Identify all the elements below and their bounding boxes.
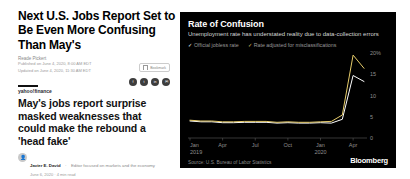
article-meta: Reade Pickert Published on June 4, 2020,… xyxy=(18,56,174,82)
legend-label-official: Official jobless rate xyxy=(194,42,239,48)
bloomberg-chart-card: Rate of Confusion Unemployment rate has … xyxy=(180,12,396,168)
screenshot-root: Next U.S. Jobs Report Set to Be Even Mor… xyxy=(0,0,410,179)
byline-text: Javier E. David · Editor focused on mark… xyxy=(30,153,155,178)
byline-author[interactable]: Javier E. David xyxy=(30,163,61,168)
chart-source: Source: U.S. Bureau of Labor Statistics xyxy=(188,160,271,165)
legend-item-adjusted[interactable]: ✓ Rate adjusted for misclassifications xyxy=(248,42,337,48)
legend-item-official[interactable]: ✓ Official jobless rate xyxy=(188,42,239,48)
svg-text:Jan: Jan xyxy=(190,142,199,148)
chart-footer: Source: U.S. Bureau of Labor Statistics … xyxy=(188,156,388,165)
embedded-source-kicker: yahoo!finance xyxy=(18,85,174,94)
svg-text:Jul: Jul xyxy=(252,142,259,148)
svg-text:Apr: Apr xyxy=(218,142,227,148)
chart-title: Rate of Confusion xyxy=(188,19,388,29)
check-icon: ✓ xyxy=(248,42,252,48)
svg-text:0: 0 xyxy=(370,135,373,141)
bloomberg-logo: Bloomberg xyxy=(350,156,388,165)
embedded-headline: May's jobs report surprise masked weakne… xyxy=(18,97,170,147)
byline-row: 👤 Javier E. David · Editor focused on ma… xyxy=(18,153,174,178)
bloomberg-article-panel: Next U.S. Jobs Report Set to Be Even Mor… xyxy=(0,0,178,179)
facebook-share-icon[interactable]: f xyxy=(129,78,137,86)
yahoo-finance-logo[interactable]: yahoo!finance xyxy=(18,88,174,94)
svg-text:Apr: Apr xyxy=(349,142,358,148)
svg-text:Jan: Jan xyxy=(316,142,325,148)
svg-text:10: 10 xyxy=(370,93,376,99)
svg-text:20%: 20% xyxy=(370,50,381,56)
article-headline: Next U.S. Jobs Report Set to Be Even Mor… xyxy=(18,9,176,52)
bookmark-button[interactable]: Bookmark xyxy=(139,63,170,72)
byline-separator: · xyxy=(65,163,66,168)
linkedin-share-icon[interactable]: in xyxy=(151,78,159,86)
svg-text:2020: 2020 xyxy=(314,149,326,155)
legend-label-adjusted: Rate adjusted for misclassifications xyxy=(254,42,337,48)
author-avatar: 👤 xyxy=(18,153,27,162)
svg-text:2019: 2019 xyxy=(190,149,202,155)
byline-date: June 6, 2020 · 4 min read xyxy=(30,172,155,177)
email-share-icon[interactable]: ✉ xyxy=(162,78,170,86)
unemployment-line-chart: Jan2019AprJulOctJan2020Apr20%151050 xyxy=(188,50,388,156)
social-share-row: f t in ✉ xyxy=(129,78,170,86)
bookmark-label: Bookmark xyxy=(150,66,166,70)
byline-role: Editor focused on markets and the econom… xyxy=(71,163,155,168)
bookmark-icon xyxy=(143,65,148,70)
twitter-share-icon[interactable]: t xyxy=(140,78,148,86)
svg-text:5: 5 xyxy=(370,114,373,120)
article-meta-right: Bookmark f t in ✉ xyxy=(129,56,170,86)
check-icon: ✓ xyxy=(188,42,192,48)
svg-text:15: 15 xyxy=(370,71,376,77)
svg-text:Oct: Oct xyxy=(284,142,293,148)
chart-subtitle: Unemployment rate has understated realit… xyxy=(188,31,388,37)
chart-legend: ✓ Official jobless rate ✓ Rate adjusted … xyxy=(188,42,388,48)
kicker-rule xyxy=(18,85,38,87)
